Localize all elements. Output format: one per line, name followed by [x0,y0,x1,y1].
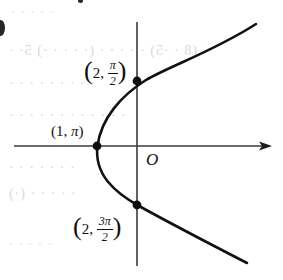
angle-value: π [71,123,79,139]
paren-open: ( [73,212,82,241]
paren-open: ( [84,56,93,85]
fraction-denominator: 2 [97,230,113,244]
paren-close: ) [113,212,122,241]
graph-canvas [0,0,283,280]
origin-label: O [146,150,158,170]
paren-close: ) [79,123,84,139]
angle-fraction: 3π2 [97,215,113,244]
label-comma: , [100,65,108,81]
polar-graph-figure: · · · · · (8 · ·5) · · · · · (· · · · ·)… [0,0,283,280]
fraction-numerator: 3π [97,215,113,230]
point-vertex-label: (1, π) [51,124,84,139]
point-upper-dot [133,77,142,86]
point-lower-label: (2, 3π2) [73,214,121,245]
point-lower-dot [133,201,142,210]
horizontal-axis [14,142,272,151]
label-comma: , [89,221,97,237]
angle-fraction: π2 [108,59,118,88]
radius-value: 1 [56,123,64,139]
point-upper-label: (2, π2) [84,58,126,89]
label-comma: , [64,123,72,139]
fraction-numerator: π [108,59,118,74]
point-vertex-dot [93,142,102,151]
paren-close: ) [118,56,127,85]
fraction-denominator: 2 [108,74,118,88]
